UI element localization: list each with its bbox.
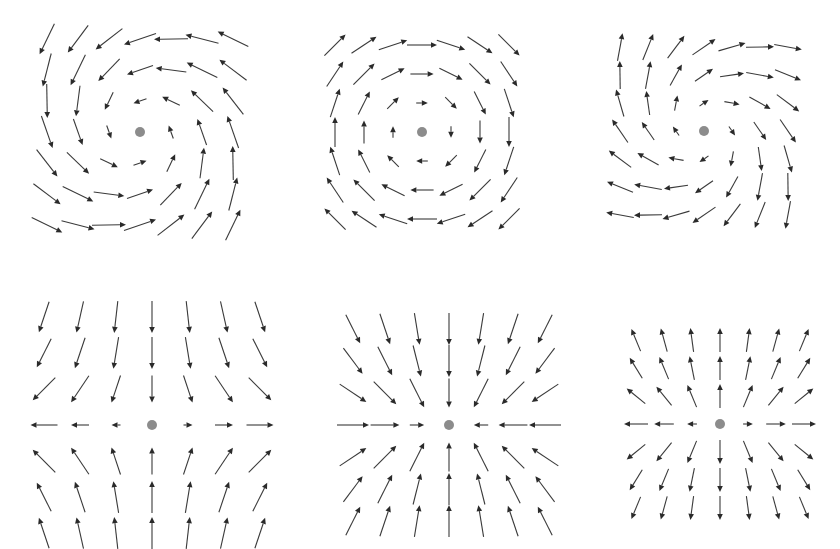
arrow-shaft bbox=[691, 468, 695, 486]
arrow-head-icon bbox=[197, 119, 202, 126]
arrow-shaft bbox=[614, 154, 632, 167]
arrow-shaft bbox=[541, 315, 553, 338]
arrow-shaft bbox=[71, 25, 88, 47]
arrow-shaft bbox=[78, 523, 84, 548]
arrow-head-icon bbox=[227, 422, 233, 428]
arrow-head-icon bbox=[38, 518, 43, 525]
arrow-head-icon bbox=[758, 165, 764, 171]
arrow-shaft bbox=[171, 131, 174, 138]
arrow-shaft bbox=[380, 512, 388, 537]
arrow-shaft bbox=[660, 443, 671, 457]
arrow-shaft bbox=[501, 62, 514, 82]
arrow-head-icon bbox=[606, 211, 612, 217]
arrow-shaft bbox=[720, 74, 738, 77]
arrow-head-icon bbox=[416, 338, 422, 344]
arrow-shaft bbox=[732, 151, 734, 160]
arrow-shaft bbox=[195, 184, 207, 209]
arrow-head-icon bbox=[111, 396, 116, 403]
arrow-shaft bbox=[229, 183, 236, 210]
arrow-shaft bbox=[44, 54, 51, 81]
arrow-shaft bbox=[660, 391, 671, 405]
arrow-head-icon bbox=[370, 37, 377, 43]
arrow-shaft bbox=[445, 97, 452, 104]
panel-spiral-sink bbox=[32, 24, 249, 241]
arrow-head-icon bbox=[186, 327, 192, 333]
arrow-shaft bbox=[799, 335, 806, 352]
arrow-shaft bbox=[691, 496, 693, 514]
arrow-shaft bbox=[768, 443, 779, 457]
arrow-shaft bbox=[413, 479, 419, 504]
arrow-head-icon bbox=[660, 513, 665, 520]
arrow-head-icon bbox=[784, 222, 790, 228]
arrow-head-icon bbox=[535, 476, 541, 483]
arrow-head-icon bbox=[223, 88, 229, 94]
arrow-head-icon bbox=[120, 222, 126, 228]
arrow-head-icon bbox=[38, 326, 43, 333]
arrow-head-icon bbox=[71, 422, 77, 428]
arrow-head-icon bbox=[261, 326, 266, 333]
arrow-head-icon bbox=[738, 71, 744, 77]
arrow-shaft bbox=[343, 481, 359, 502]
arrow-head-icon bbox=[810, 421, 816, 427]
arrow-head-icon bbox=[775, 328, 780, 335]
arrow-head-icon bbox=[459, 45, 466, 50]
arrow-shaft bbox=[249, 378, 267, 396]
arrow-head-icon bbox=[68, 46, 74, 53]
arrow-shaft bbox=[185, 487, 189, 513]
arrow-head-icon bbox=[74, 110, 80, 116]
arrow-shaft bbox=[77, 86, 80, 111]
arrow-head-icon bbox=[187, 362, 193, 368]
arrow-shaft bbox=[223, 34, 248, 46]
arrow-shaft bbox=[224, 63, 246, 80]
arrow-shaft bbox=[631, 444, 645, 455]
arrow-shaft bbox=[727, 204, 740, 222]
arrow-shaft bbox=[352, 40, 372, 53]
arrow-head-icon bbox=[706, 69, 713, 75]
arrow-head-icon bbox=[188, 396, 193, 403]
arrow-head-icon bbox=[634, 183, 640, 189]
arrow-shaft bbox=[743, 441, 750, 458]
arrow-head-icon bbox=[761, 133, 767, 140]
arrow-shaft bbox=[186, 523, 189, 549]
arrow-shaft bbox=[353, 68, 370, 85]
arrow-shaft bbox=[643, 156, 659, 165]
arrow-shaft bbox=[618, 95, 624, 116]
arrow-head-icon bbox=[361, 120, 367, 126]
arrow-head-icon bbox=[48, 142, 53, 149]
arrow-head-icon bbox=[227, 396, 233, 403]
arrow-head-icon bbox=[729, 129, 735, 136]
arrow-shaft bbox=[134, 163, 141, 166]
arrow-head-icon bbox=[795, 46, 801, 52]
arrow-shaft bbox=[378, 480, 390, 503]
arrow-head-icon bbox=[225, 482, 230, 489]
arrow-shaft bbox=[77, 488, 85, 513]
arrow-shaft bbox=[670, 185, 688, 188]
arrow-shaft bbox=[477, 149, 486, 167]
arrow-shaft bbox=[75, 453, 89, 475]
arrow-head-icon bbox=[416, 158, 422, 164]
arrow-head-icon bbox=[71, 396, 77, 403]
arrow-shaft bbox=[775, 70, 795, 78]
arrow-head-icon bbox=[733, 101, 739, 107]
arrow-shaft bbox=[539, 348, 555, 369]
arrow-shaft bbox=[510, 314, 518, 339]
arrow-shaft bbox=[662, 496, 667, 513]
arrow-head-icon bbox=[227, 116, 232, 123]
arrow-shaft bbox=[768, 391, 779, 405]
fixed-point-dot bbox=[135, 127, 145, 137]
arrow-shaft bbox=[41, 302, 49, 327]
arrow-head-icon bbox=[674, 95, 680, 101]
arrow-head-icon bbox=[360, 448, 367, 454]
arrow-shaft bbox=[784, 146, 790, 167]
arrow-shaft bbox=[167, 160, 173, 172]
arrow-head-icon bbox=[363, 422, 369, 428]
arrow-shaft bbox=[795, 392, 809, 403]
arrow-shaft bbox=[437, 40, 460, 48]
arrow-head-icon bbox=[124, 40, 131, 45]
arrow-shaft bbox=[647, 97, 650, 115]
arrow-head-icon bbox=[729, 160, 735, 166]
arrow-head-icon bbox=[768, 44, 774, 50]
arrow-shaft bbox=[374, 382, 392, 400]
arrow-shaft bbox=[346, 315, 358, 338]
arrow-shaft bbox=[506, 147, 514, 170]
